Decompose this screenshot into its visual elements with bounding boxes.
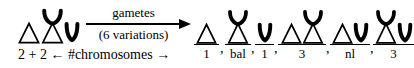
gamete-separator-4: , — [326, 44, 330, 54]
gamete-2: bal — [225, 2, 251, 61]
gamete-6: 3 — [373, 2, 414, 61]
triangle-chromosome-icon — [18, 22, 40, 44]
x-chromosome-icon — [302, 11, 324, 44]
u-chromosome-icon — [64, 21, 80, 44]
u-chromosome-icon — [257, 22, 273, 44]
gamete-4-label: 3 — [278, 45, 326, 61]
gamete-3-label: 1 — [255, 45, 274, 61]
gametes-arrow-group: gametes (6 variations) — [86, 6, 193, 43]
triangle-chromosome-icon — [281, 23, 302, 44]
arrow-shaft — [86, 23, 182, 25]
triangle-chromosome-icon — [196, 23, 217, 44]
gamete-1-label: 1 — [194, 45, 219, 61]
u-chromosome-icon — [353, 22, 369, 44]
bottom-annotation: 2 + 2 ← #chromosomes → — [18, 46, 170, 64]
gamete-3: 1 — [255, 13, 274, 61]
x-chromosome-icon — [227, 11, 249, 44]
arrow-bottom-label: (6 variations) — [80, 28, 187, 42]
chromosome-count-left: 2 + 2 — [18, 47, 47, 62]
arrow-top-label: gametes — [80, 6, 187, 20]
gamete-1-glyphs — [194, 13, 219, 45]
chromosome-count-label: #chromosomes — [68, 47, 153, 62]
gamete-4-glyphs — [278, 2, 326, 45]
gamete-separator-2: , — [251, 44, 255, 54]
gamete-6-glyphs — [373, 2, 414, 45]
parent-karyotype — [18, 10, 80, 44]
left-arrow-icon: ← — [50, 47, 64, 62]
triangle-chromosome-icon — [332, 23, 353, 44]
gamete-2-glyphs — [225, 2, 251, 45]
right-arrow-icon: → — [156, 47, 170, 62]
gamete-5-glyphs — [330, 13, 370, 45]
gamete-separator-1: , — [220, 44, 224, 54]
gamete-5: nl — [330, 13, 370, 61]
gamete-6-label: 3 — [373, 45, 414, 61]
gamete-separator-3: , — [274, 44, 278, 54]
gamete-4: 3 — [278, 2, 326, 61]
u-chromosome-icon — [397, 22, 413, 44]
gamete-1: 1 — [194, 13, 219, 61]
x-chromosome-icon — [375, 11, 397, 44]
gamete-3-glyphs — [255, 13, 274, 45]
x-chromosome-icon — [41, 10, 64, 44]
gamete-5-label: nl — [330, 45, 370, 61]
gamete-2-label: bal — [225, 45, 251, 61]
